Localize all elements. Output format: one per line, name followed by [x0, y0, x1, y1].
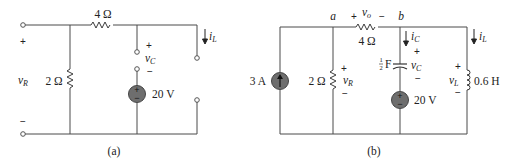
label-4ohm-b: 4 Ω: [358, 35, 375, 47]
label-3a-b: 3 A: [250, 75, 267, 87]
label-20v-a: 20 V: [152, 88, 175, 100]
vo-minus-b: −: [379, 11, 385, 22]
vo-plus-b: +: [351, 11, 357, 22]
vc-plus-a: +: [146, 40, 152, 51]
label-2ohm-a: 2 Ω: [45, 75, 62, 87]
vr-label-a: vR: [18, 74, 28, 88]
vo-label-b: vo: [362, 6, 371, 20]
resistor-2ohm-b: [330, 70, 336, 89]
node-b-label: b: [398, 10, 404, 22]
terminal-right-bottom-a: [195, 98, 200, 103]
il-label-a: iL: [209, 30, 217, 44]
vr-label-b: vR: [343, 74, 353, 88]
src-minus-a: −: [134, 93, 139, 103]
circuit-b: 3 A 2 Ω + vR − a b + vo − 4 Ω + − 20 V 1…: [250, 6, 500, 158]
arrowhead-il-a: [203, 39, 208, 44]
terminal-vc-top-a: [135, 50, 140, 55]
vl-minus-b: −: [455, 87, 461, 98]
vc-minus-a: −: [147, 66, 153, 77]
il-label-b: iL: [479, 30, 487, 44]
vc-minus-b: −: [415, 73, 421, 84]
src-minus-b: −: [397, 99, 402, 109]
cap-num-b: 1: [379, 56, 382, 63]
circuit-a: + − 4 Ω 2 Ω 20 V + vR − + vC − iL (a): [18, 8, 217, 158]
vc-label-a: vC: [145, 52, 156, 66]
arrowhead-ic-b: [404, 41, 409, 46]
vr-plus-b: +: [341, 63, 347, 74]
inductor-0.6h-b: [467, 70, 470, 90]
cap-unit-b: F: [385, 58, 391, 70]
label-4ohm-a: 4 Ω: [94, 8, 111, 20]
caption-a: (a): [108, 145, 121, 158]
terminal-right-top-a: [195, 56, 200, 61]
caption-b: (b): [367, 145, 381, 158]
cap-den-b: 2: [379, 64, 382, 71]
vr-minus-a: −: [20, 116, 26, 127]
resistor-4ohm-a: [91, 22, 110, 28]
vl-label-b: vL: [449, 74, 459, 88]
terminal-bottom-left-a: [21, 132, 26, 137]
label-2ohm-b: 2 Ω: [308, 75, 325, 87]
resistor-4ohm-b: [356, 24, 375, 30]
vc-label-b: vC: [411, 59, 422, 73]
vr-plus-a: +: [20, 36, 26, 47]
arrowhead-il-b: [472, 39, 477, 44]
terminal-vc-bottom-a: [135, 67, 140, 72]
resistor-2ohm-a: [67, 69, 73, 88]
label-20v-b: 20 V: [414, 94, 437, 106]
ic-label-b: iC: [411, 30, 420, 44]
circuit-figure: + − 4 Ω 2 Ω 20 V + vR − + vC − iL (a): [0, 0, 516, 166]
vc-plus-b: +: [414, 46, 420, 57]
label-0.6h-b: 0.6 H: [474, 75, 500, 87]
terminal-top-left-a: [21, 23, 26, 28]
vr-minus-b: −: [342, 88, 348, 99]
node-a-label: a: [330, 10, 336, 22]
vl-plus-b: +: [455, 61, 461, 72]
